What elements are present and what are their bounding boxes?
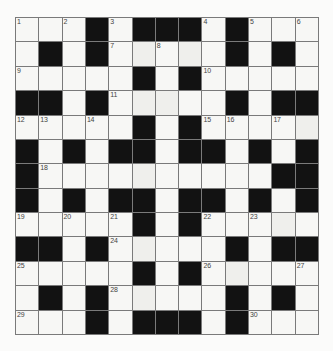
crossword-cell[interactable] — [63, 164, 85, 187]
crossword-cell[interactable] — [249, 42, 271, 65]
crossword-cell[interactable] — [156, 164, 178, 187]
crossword-cell[interactable]: 27 — [296, 262, 318, 285]
crossword-cell[interactable]: 19 — [16, 213, 38, 236]
crossword-cell[interactable] — [39, 189, 61, 212]
crossword-cell[interactable] — [133, 164, 155, 187]
crossword-cell[interactable] — [272, 140, 294, 163]
crossword-cell[interactable]: 20 — [63, 213, 85, 236]
crossword-cell[interactable] — [109, 311, 131, 334]
crossword-cell[interactable] — [272, 189, 294, 212]
crossword-cell[interactable] — [63, 116, 85, 139]
crossword-cell[interactable] — [39, 213, 61, 236]
crossword-cell[interactable] — [156, 116, 178, 139]
crossword-cell[interactable] — [202, 164, 224, 187]
crossword-cell[interactable] — [249, 116, 271, 139]
crossword-cell[interactable] — [109, 116, 131, 139]
crossword-cell[interactable] — [39, 140, 61, 163]
crossword-cell[interactable] — [202, 91, 224, 114]
crossword-cell[interactable] — [86, 262, 108, 285]
crossword-cell[interactable] — [63, 42, 85, 65]
crossword-cell[interactable] — [226, 140, 248, 163]
crossword-cell[interactable] — [249, 237, 271, 260]
crossword-cell[interactable] — [156, 286, 178, 309]
crossword-cell[interactable] — [179, 286, 201, 309]
crossword-cell[interactable] — [249, 91, 271, 114]
crossword-cell[interactable] — [226, 67, 248, 90]
crossword-cell[interactable] — [179, 164, 201, 187]
crossword-cell[interactable] — [133, 91, 155, 114]
crossword-cell[interactable] — [296, 42, 318, 65]
crossword-cell[interactable] — [226, 189, 248, 212]
crossword-cell[interactable] — [39, 67, 61, 90]
crossword-cell[interactable] — [63, 262, 85, 285]
crossword-cell[interactable] — [109, 67, 131, 90]
crossword-cell[interactable] — [63, 67, 85, 90]
crossword-cell[interactable] — [39, 311, 61, 334]
crossword-cell[interactable]: 11 — [109, 91, 131, 114]
crossword-cell[interactable] — [156, 140, 178, 163]
crossword-cell[interactable] — [202, 286, 224, 309]
crossword-cell[interactable] — [249, 164, 271, 187]
crossword-cell[interactable]: 1 — [16, 18, 38, 41]
crossword-cell[interactable] — [16, 42, 38, 65]
crossword-cell[interactable]: 15 — [202, 116, 224, 139]
crossword-cell[interactable]: 18 — [39, 164, 61, 187]
crossword-cell[interactable] — [272, 311, 294, 334]
crossword-cell[interactable] — [133, 286, 155, 309]
crossword-cell[interactable]: 10 — [202, 67, 224, 90]
crossword-cell[interactable] — [109, 262, 131, 285]
crossword-cell[interactable] — [272, 67, 294, 90]
crossword-cell[interactable] — [202, 311, 224, 334]
crossword-cell[interactable] — [226, 164, 248, 187]
crossword-cell[interactable]: 24 — [109, 237, 131, 260]
crossword-cell[interactable] — [156, 262, 178, 285]
crossword-cell[interactable] — [272, 213, 294, 236]
crossword-cell[interactable]: 6 — [296, 18, 318, 41]
crossword-cell[interactable] — [63, 286, 85, 309]
crossword-cell[interactable] — [249, 67, 271, 90]
crossword-cell[interactable]: 2 — [63, 18, 85, 41]
crossword-cell[interactable] — [133, 237, 155, 260]
crossword-cell[interactable] — [296, 286, 318, 309]
crossword-cell[interactable] — [249, 286, 271, 309]
crossword-cell[interactable]: 7 — [109, 42, 131, 65]
crossword-cell[interactable] — [63, 311, 85, 334]
crossword-cell[interactable] — [202, 42, 224, 65]
crossword-cell[interactable]: 17 — [272, 116, 294, 139]
crossword-cell[interactable] — [39, 262, 61, 285]
crossword-cell[interactable] — [272, 18, 294, 41]
crossword-cell[interactable] — [86, 140, 108, 163]
crossword-cell[interactable] — [226, 213, 248, 236]
crossword-cell[interactable]: 13 — [39, 116, 61, 139]
crossword-cell[interactable] — [86, 67, 108, 90]
crossword-cell[interactable] — [39, 18, 61, 41]
crossword-cell[interactable]: 8 — [156, 42, 178, 65]
crossword-cell[interactable]: 22 — [202, 213, 224, 236]
crossword-cell[interactable] — [226, 262, 248, 285]
crossword-cell[interactable]: 26 — [202, 262, 224, 285]
crossword-cell[interactable]: 9 — [16, 67, 38, 90]
crossword-cell[interactable]: 12 — [16, 116, 38, 139]
crossword-cell[interactable] — [63, 91, 85, 114]
crossword-cell[interactable] — [156, 213, 178, 236]
crossword-cell[interactable] — [202, 237, 224, 260]
crossword-cell[interactable]: 5 — [249, 18, 271, 41]
crossword-cell[interactable]: 29 — [16, 311, 38, 334]
crossword-cell[interactable]: 14 — [86, 116, 108, 139]
crossword-cell[interactable]: 23 — [249, 213, 271, 236]
crossword-cell[interactable] — [296, 311, 318, 334]
crossword-cell[interactable] — [296, 67, 318, 90]
crossword-cell[interactable] — [249, 262, 271, 285]
crossword-cell[interactable]: 28 — [109, 286, 131, 309]
crossword-cell[interactable]: 21 — [109, 213, 131, 236]
crossword-cell[interactable] — [179, 91, 201, 114]
crossword-cell[interactable] — [63, 237, 85, 260]
crossword-cell[interactable] — [133, 42, 155, 65]
crossword-cell[interactable]: 3 — [109, 18, 131, 41]
crossword-cell[interactable] — [16, 286, 38, 309]
crossword-cell[interactable] — [156, 67, 178, 90]
crossword-cell[interactable]: 25 — [16, 262, 38, 285]
crossword-cell[interactable] — [179, 237, 201, 260]
crossword-cell[interactable] — [86, 213, 108, 236]
crossword-cell[interactable]: 30 — [249, 311, 271, 334]
